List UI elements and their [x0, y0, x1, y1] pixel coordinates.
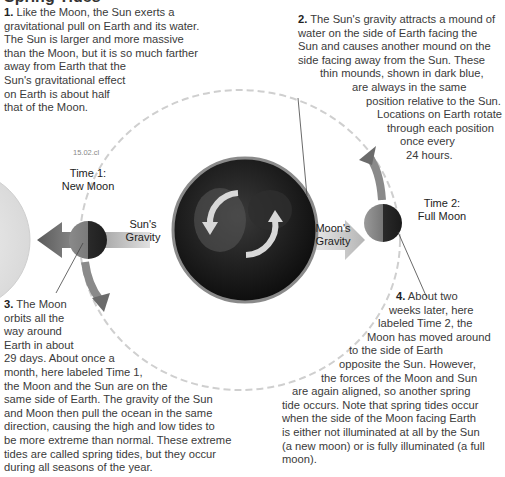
orbit-arrow-lower [85, 262, 100, 300]
caption-3: 3. The Moon orbits all the way around Ea… [4, 298, 231, 475]
caption-2: 2. The Sun's gravity attracts a mound of… [298, 13, 505, 163]
moon-new [69, 221, 107, 259]
caption-3-number: 3. [4, 298, 13, 310]
label-time-2: Time 2: Full Moon [412, 197, 472, 223]
caption-4-number: 4. [396, 290, 405, 302]
caption-2-number: 2. [298, 13, 307, 25]
label-moon-gravity: Moon's Gravity [312, 222, 354, 248]
earth [173, 158, 317, 302]
figure-id: 15.02.cl [73, 148, 99, 157]
caption-1-number: 1. [4, 6, 13, 18]
sun [0, 170, 30, 310]
label-time-1: Time 1: New Moon [58, 167, 118, 193]
leader-line-4 [398, 232, 427, 298]
caption-4: 4. About two weeks later, here labeled T… [285, 290, 503, 467]
label-sun-gravity: Sun's Gravity [118, 218, 168, 244]
caption-1: 1. Like the Moon, the Sun exerts a gravi… [4, 6, 199, 115]
moon-full [364, 204, 402, 242]
